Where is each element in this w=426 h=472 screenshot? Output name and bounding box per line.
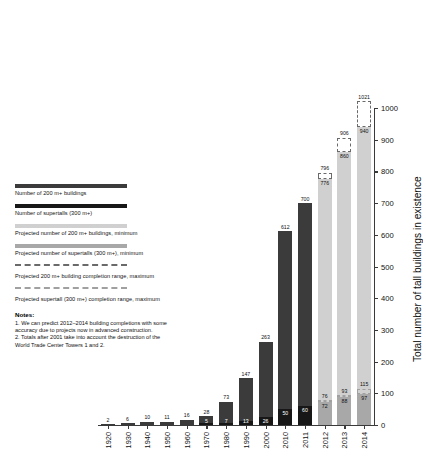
bar-supertall-value: 88 (342, 398, 348, 404)
projected-max-range (357, 101, 371, 127)
bar-total (278, 231, 292, 425)
bar-chart: 2610111652877313147262635061260700796767… (98, 108, 374, 430)
x-tick (226, 425, 227, 429)
bar-value: 263 (261, 334, 270, 340)
x-axis-line (98, 425, 375, 426)
x-axis-label: 1940 (143, 432, 152, 448)
x-tick (246, 425, 247, 429)
y-axis-label: 200 (381, 357, 394, 366)
y-tick (374, 425, 378, 426)
x-tick (344, 425, 345, 429)
bar-value: 73 (223, 394, 229, 400)
x-tick (128, 425, 129, 429)
y-axis-label: 0 (381, 421, 385, 430)
bar-supertall-value: 13 (243, 418, 249, 424)
y-axis-label: 700 (381, 199, 394, 208)
y-tick (374, 298, 378, 299)
bar-total (259, 342, 273, 425)
y-tick (374, 330, 378, 331)
bar-value: 940 (360, 128, 369, 134)
bar-value: 28 (204, 409, 210, 415)
x-tick (266, 425, 267, 429)
y-axis-label: 900 (381, 135, 394, 144)
x-axis-label: 1970 (202, 432, 211, 448)
bar-total (298, 203, 312, 425)
x-axis-label: 2013 (340, 432, 349, 448)
bar-value-max: 1021 (358, 94, 370, 100)
y-axis-label: 1000 (381, 104, 398, 113)
x-axis-label: 2000 (262, 432, 271, 448)
x-axis-label: 1950 (163, 432, 172, 448)
x-tick (206, 425, 207, 429)
x-axis-label: 1980 (222, 432, 231, 448)
y-axis-label: 500 (381, 262, 394, 271)
y-axis-label: 300 (381, 325, 394, 334)
y-tick (374, 108, 378, 109)
y-tick (374, 140, 378, 141)
x-tick (285, 425, 286, 429)
bar-value: 612 (281, 224, 290, 230)
x-tick (305, 425, 306, 429)
x-tick (108, 425, 109, 429)
bar-supertall-value-max: 115 (360, 381, 368, 387)
y-tick (374, 393, 378, 394)
y-axis-label: 800 (381, 167, 394, 176)
y-axis-label: 400 (381, 294, 394, 303)
y-axis-title: Total number of tall buildings in existe… (410, 108, 424, 430)
projected-supertall-max-range (337, 395, 351, 397)
bar-supertall-value: 72 (322, 403, 328, 409)
x-tick (167, 425, 168, 429)
x-tick (187, 425, 188, 429)
bar-supertall-value: 5 (205, 418, 208, 424)
bar-supertall-value: 50 (282, 410, 288, 416)
bar-value-max: 906 (340, 130, 349, 136)
bar-value-max: 796 (320, 165, 329, 171)
y-tick (374, 235, 378, 236)
bar-value: 16 (184, 412, 190, 418)
bar-total (318, 179, 332, 425)
bar-value: 700 (301, 196, 310, 202)
bar-value: 6 (126, 416, 129, 422)
y-tick (374, 203, 378, 204)
plot-area: 2610111652877313147262635061260700796767… (98, 108, 374, 425)
bar-value: 147 (242, 371, 251, 377)
bar-total (337, 152, 351, 425)
x-tick (147, 425, 148, 429)
x-axis-label: 1960 (183, 432, 192, 448)
x-axis-label: 1920 (104, 432, 113, 448)
bar-value: 860 (340, 153, 349, 159)
projected-max-range (337, 138, 351, 153)
x-axis-label: 2012 (321, 432, 330, 448)
bar-value: 2 (106, 417, 109, 423)
bar-supertall-value-max: 93 (342, 388, 348, 394)
projected-supertall-max-range (357, 389, 371, 395)
bar-value: 11 (164, 414, 169, 420)
x-tick (364, 425, 365, 429)
bar-supertall-value: 7 (225, 418, 228, 424)
bar-value: 776 (320, 180, 329, 186)
bar-supertall-value: 60 (302, 407, 308, 413)
y-axis-label: 100 (381, 389, 394, 398)
bar-supertall-value: 97 (361, 395, 367, 401)
bar-value: 10 (144, 414, 150, 420)
bar-supertall-value-max: 76 (322, 393, 328, 399)
projected-supertall-max-range (318, 400, 332, 402)
y-axis-label: 600 (381, 230, 394, 239)
x-axis-label: 2010 (281, 432, 290, 448)
x-axis-label: 1990 (242, 432, 251, 448)
y-tick (374, 362, 378, 363)
bar-supertall-value: 26 (263, 418, 269, 424)
x-tick (325, 425, 326, 429)
x-axis-label: 2014 (360, 432, 369, 448)
y-tick (374, 171, 378, 172)
y-tick (374, 267, 378, 268)
x-axis-label: 1930 (124, 432, 133, 448)
x-axis-label: 2011 (301, 432, 310, 448)
